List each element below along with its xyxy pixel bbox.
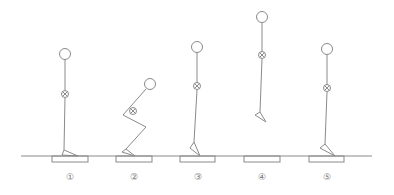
phase-label-4: ④ bbox=[255, 172, 269, 182]
center-of-mass-icon bbox=[62, 91, 69, 98]
phase-label-2: ② bbox=[127, 172, 141, 182]
phase-label-1: ① bbox=[63, 172, 77, 182]
figure-standing bbox=[60, 49, 79, 157]
phase-label-3: ③ bbox=[191, 172, 205, 182]
force-plate-5 bbox=[309, 156, 344, 162]
center-of-mass-icon bbox=[130, 108, 137, 115]
force-plate-3 bbox=[180, 156, 215, 162]
center-of-mass-icon bbox=[194, 83, 201, 90]
force-plate-2 bbox=[116, 156, 152, 162]
force-plate-1 bbox=[52, 156, 88, 162]
figure-takeoff bbox=[190, 42, 203, 157]
center-of-mass-icon bbox=[259, 52, 266, 59]
figure-flight bbox=[255, 12, 268, 123]
figure-squat bbox=[122, 79, 156, 157]
center-of-mass-icon bbox=[324, 85, 331, 92]
jump-phase-diagram bbox=[0, 0, 394, 195]
phase-label-5: ⑤ bbox=[320, 172, 334, 182]
force-plate-4 bbox=[244, 156, 280, 162]
figure-landing bbox=[320, 44, 335, 157]
